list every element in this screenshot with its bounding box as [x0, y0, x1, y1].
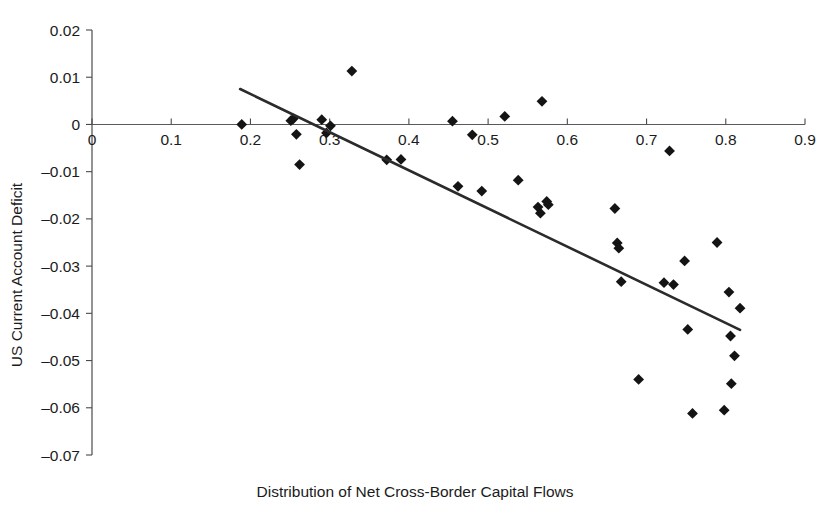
y-tick-marks: [86, 30, 92, 455]
data-point-marker: [346, 66, 357, 77]
x-tick-labels: 00.10.20.30.40.50.60.70.80.9: [88, 131, 816, 148]
y-axis-group: 0.020.010–0.01–0.02–0.03–0.04–0.05–0.06–…: [41, 22, 92, 464]
x-tick-label: 0.6: [557, 131, 579, 148]
data-point-marker: [513, 175, 524, 186]
data-point-marker: [294, 159, 305, 170]
data-point-marker: [726, 378, 737, 389]
trend-line: [240, 89, 740, 330]
y-tick-label: –0.05: [41, 352, 80, 369]
y-tick-label: –0.06: [41, 399, 80, 416]
data-point-marker: [725, 331, 736, 342]
x-tick-label: 0.9: [794, 131, 816, 148]
data-point-marker: [291, 129, 302, 140]
x-tick-label: 0.7: [636, 131, 658, 148]
data-point-marker: [664, 145, 675, 156]
data-point-marker: [476, 186, 487, 197]
data-point-marker: [729, 350, 740, 361]
data-point-marker: [659, 277, 670, 288]
data-point-marker: [633, 374, 644, 385]
data-point-marker: [467, 129, 478, 140]
data-point-marker: [316, 114, 327, 125]
x-tick-label: 0.5: [477, 131, 499, 148]
x-tick-label: 0.2: [240, 131, 262, 148]
y-tick-labels: 0.020.010–0.01–0.02–0.03–0.04–0.05–0.06–…: [41, 22, 80, 464]
data-point-marker: [668, 279, 679, 290]
y-axis-title: US Current Account Deficit: [8, 182, 25, 367]
y-tick-label: –0.03: [41, 258, 80, 275]
data-point-marker: [499, 111, 510, 122]
y-tick-label: –0.02: [41, 210, 80, 227]
data-point-marker: [616, 276, 627, 287]
data-point-marker: [396, 154, 407, 165]
x-tick-label: 0.1: [160, 131, 182, 148]
data-point-marker: [735, 303, 746, 314]
y-tick-label: 0: [71, 116, 80, 133]
data-point-marker: [453, 181, 464, 192]
data-point-marker: [609, 203, 620, 214]
x-tick-label: 0.8: [715, 131, 737, 148]
scatter-chart: 0.020.010–0.01–0.02–0.03–0.04–0.05–0.06–…: [0, 0, 831, 511]
chart-canvas: 0.020.010–0.01–0.02–0.03–0.04–0.05–0.06–…: [0, 0, 831, 511]
y-tick-label: –0.04: [41, 305, 80, 322]
data-point-marker: [724, 287, 735, 298]
data-point-marker: [687, 408, 698, 419]
data-point-markers: [236, 66, 745, 419]
data-point-marker: [236, 119, 247, 130]
data-point-marker: [682, 324, 693, 335]
x-axis-title: Distribution of Net Cross-Border Capital…: [257, 483, 574, 500]
data-point-marker: [712, 237, 723, 248]
data-point-marker: [679, 256, 690, 267]
data-point-marker: [719, 405, 730, 416]
y-tick-label: –0.07: [41, 447, 80, 464]
data-point-marker: [537, 96, 548, 107]
y-tick-label: 0.02: [50, 22, 80, 39]
y-tick-label: –0.01: [41, 163, 80, 180]
x-tick-label: 0: [88, 131, 97, 148]
y-tick-label: 0.01: [50, 69, 80, 86]
x-tick-label: 0.4: [398, 131, 420, 148]
